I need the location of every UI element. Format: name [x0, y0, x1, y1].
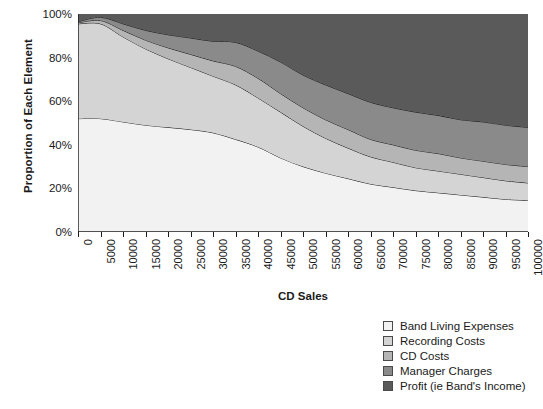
legend-swatch-icon	[383, 321, 393, 331]
x-tick-label: 65000	[375, 239, 387, 270]
x-tick-label: 30000	[217, 239, 229, 270]
legend-item: Manager Charges	[383, 364, 526, 379]
x-tick-label: 75000	[420, 239, 432, 270]
x-tick-mark	[146, 232, 147, 237]
plot-svg	[78, 14, 528, 232]
legend-label: Recording Costs	[400, 335, 485, 347]
y-tick-label: 0%	[30, 227, 72, 238]
x-tick-label: 95000	[510, 239, 522, 270]
x-tick-label: 0	[82, 239, 94, 245]
chart-legend: Band Living ExpensesRecording CostsCD Co…	[383, 318, 526, 394]
x-tick-mark	[191, 232, 192, 237]
legend-swatch-icon	[383, 336, 393, 346]
legend-swatch-icon	[383, 381, 393, 391]
y-tick-label: 40%	[30, 139, 72, 150]
x-tick-mark	[258, 232, 259, 237]
x-tick-label: 10000	[127, 239, 139, 270]
x-tick-mark	[101, 232, 102, 237]
x-tick-label: 25000	[195, 239, 207, 270]
x-tick-label: 85000	[465, 239, 477, 270]
legend-label: Band Living Expenses	[400, 320, 514, 332]
y-axis-tick-labels: 0%20%40%60%80%100%	[30, 0, 72, 409]
legend-item: CD Costs	[383, 348, 526, 363]
x-tick-mark	[506, 232, 507, 237]
x-tick-mark	[213, 232, 214, 237]
x-tick-mark	[393, 232, 394, 237]
legend-item: Band Living Expenses	[383, 318, 526, 333]
x-tick-label: 15000	[150, 239, 162, 270]
x-tick-label: 90000	[487, 239, 499, 270]
legend-label: Manager Charges	[400, 365, 492, 377]
stacked-area-chart: Proportion of Each Element 0%20%40%60%80…	[0, 0, 543, 409]
x-tick-label: 70000	[397, 239, 409, 270]
legend-label: CD Costs	[400, 350, 449, 362]
x-tick-mark	[236, 232, 237, 237]
legend-item: Profit (ie Band's Income)	[383, 379, 526, 394]
x-tick-label: 20000	[172, 239, 184, 270]
x-tick-label: 5000	[105, 239, 117, 263]
x-tick-mark	[78, 232, 79, 237]
x-tick-mark	[483, 232, 484, 237]
x-tick-mark	[528, 232, 529, 237]
x-tick-mark	[461, 232, 462, 237]
legend-swatch-icon	[383, 351, 393, 361]
x-tick-mark	[416, 232, 417, 237]
x-tick-label: 35000	[240, 239, 252, 270]
legend-label: Profit (ie Band's Income)	[400, 380, 526, 392]
x-tick-mark	[371, 232, 372, 237]
y-tick-label: 20%	[30, 183, 72, 194]
y-tick-label: 80%	[30, 52, 72, 63]
x-tick-label: 55000	[330, 239, 342, 270]
x-tick-label: 80000	[442, 239, 454, 270]
legend-swatch-icon	[383, 366, 393, 376]
x-tick-mark	[168, 232, 169, 237]
x-tick-label: 100000	[532, 239, 543, 276]
x-tick-mark	[281, 232, 282, 237]
x-tick-label: 40000	[262, 239, 274, 270]
x-tick-mark	[123, 232, 124, 237]
y-tick-label: 60%	[30, 96, 72, 107]
x-axis-title: CD Sales	[78, 290, 528, 302]
x-tick-mark	[326, 232, 327, 237]
x-tick-mark	[303, 232, 304, 237]
legend-item: Recording Costs	[383, 333, 526, 348]
x-tick-label: 60000	[352, 239, 364, 270]
plot-area	[78, 14, 528, 232]
y-tick-label: 100%	[30, 9, 72, 20]
x-tick-mark	[348, 232, 349, 237]
x-tick-label: 45000	[285, 239, 297, 270]
x-tick-label: 50000	[307, 239, 319, 270]
x-axis-tick-labels: 0500010000150002000025000300003500040000…	[78, 232, 528, 292]
x-tick-mark	[438, 232, 439, 237]
